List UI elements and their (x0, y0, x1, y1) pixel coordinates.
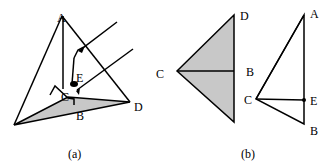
shaded-kite (177, 15, 234, 122)
caption-b: (b) (241, 147, 255, 161)
label-c-left: C (156, 67, 164, 81)
panel-a: A E C D B (a) (14, 11, 143, 161)
label-b: B (76, 109, 84, 123)
label-d-left: D (240, 9, 249, 23)
label-e-right: E (310, 94, 317, 108)
label-b-right: B (310, 124, 318, 138)
figure-canvas: A E C D B (a) C D B A C E B (b) (0, 0, 327, 168)
label-b-left: B (246, 65, 254, 79)
label-a: A (57, 11, 66, 25)
caption-a: (a) (68, 147, 81, 161)
label-e: E (76, 71, 83, 85)
triangle-acb (256, 15, 304, 124)
shaded-base-triangle (14, 97, 130, 125)
label-a-right: A (310, 7, 319, 21)
label-c-right: C (244, 93, 252, 107)
label-c: C (61, 90, 69, 104)
crease-connector (72, 58, 74, 84)
panel-b-right: A C E B (244, 7, 319, 138)
label-d: D (134, 100, 143, 114)
point-e-dot-right (302, 98, 306, 102)
edge-ca (256, 15, 304, 99)
segment-ce (256, 99, 304, 100)
panel-b-left: C D B (156, 9, 254, 122)
crease-lower (77, 49, 133, 90)
